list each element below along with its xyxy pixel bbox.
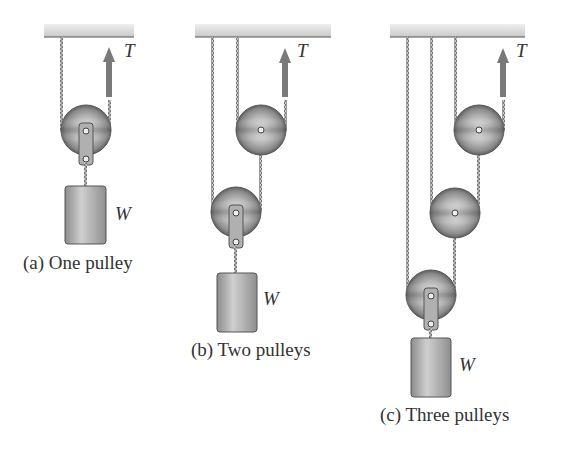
panel-c-three-pulleys	[390, 24, 525, 397]
weight-block-icon	[65, 186, 106, 244]
rope	[406, 37, 409, 295]
rope	[211, 37, 214, 212]
caption-c: (c) Three pulleys	[380, 404, 509, 426]
rope	[454, 37, 457, 131]
pulley-icon	[454, 105, 504, 155]
pulley-icon	[61, 105, 111, 165]
rope	[60, 37, 63, 132]
weight-label: W	[459, 354, 475, 376]
rope	[430, 37, 433, 213]
weight-label: W	[263, 288, 279, 310]
tension-arrow-icon	[497, 48, 509, 97]
caption-a: (a) One pulley	[23, 252, 133, 274]
ceiling	[390, 24, 525, 37]
pulley-icon	[406, 270, 456, 330]
rope	[236, 37, 239, 131]
tension-label: T	[297, 40, 308, 62]
pulley-diagram-svg	[0, 0, 566, 449]
tension-label: T	[516, 40, 527, 62]
tension-label: T	[124, 40, 135, 62]
ceiling	[44, 24, 134, 37]
tension-arrow-icon	[103, 47, 115, 97]
ceiling	[195, 24, 331, 37]
rope	[84, 162, 87, 186]
tension-arrow-icon	[279, 48, 291, 97]
rope	[429, 327, 432, 338]
pulley-icon	[236, 105, 286, 155]
panel-b-two-pulleys	[195, 24, 331, 332]
weight-label: W	[115, 203, 131, 225]
pulley-icon	[430, 188, 480, 238]
weight-block-icon	[217, 273, 257, 332]
weight-block-icon	[411, 338, 451, 397]
pulley-diagram: T W (a) One pulley T W (b) Two pulleys T…	[0, 0, 566, 449]
rope	[234, 245, 237, 273]
pulley-icon	[211, 187, 261, 248]
caption-b: (b) Two pulleys	[191, 339, 311, 361]
